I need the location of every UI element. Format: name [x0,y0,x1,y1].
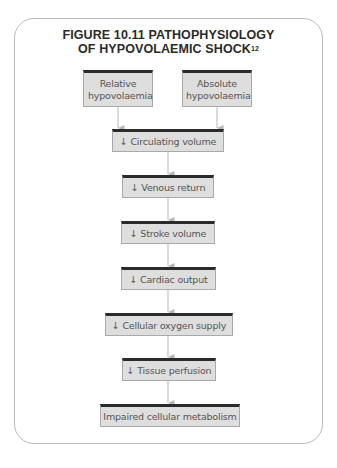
node-stroke-volume: ↓ Stroke volume [121,221,215,244]
node-label: ↓ Cardiac output [129,274,207,286]
node-label: ↓ Stroke volume [130,228,206,240]
node-label: ↓ Cellular oxygen supply [112,320,226,332]
node-relative-hypovolaemia: Relative hypovolaemia [83,70,153,107]
node-label: ↓ Venous return [131,182,205,194]
node-label: ↓ Tissue perfusion [127,365,212,377]
node-cardiac-output: ↓ Cardiac output [121,267,216,290]
node-tissue-perfusion: ↓ Tissue perfusion [122,358,216,381]
node-circulating-volume: ↓ Circulating volume [112,129,224,152]
node-venous-return: ↓ Venous return [122,175,214,198]
node-label: Impaired cellular metabolism [103,411,236,423]
node-cellular-oxygen-supply: ↓ Cellular oxygen supply [105,313,233,336]
node-label: ↓ Circulating volume [120,136,216,148]
node-absolute-hypovolaemia: Absolute hypovolaemia [182,70,252,107]
node-impaired-cellular-metabolism: Impaired cellular metabolism [100,404,240,427]
node-label: Relative hypovolaemia [88,78,148,102]
node-label: Absolute hypovolaemia [186,78,248,102]
